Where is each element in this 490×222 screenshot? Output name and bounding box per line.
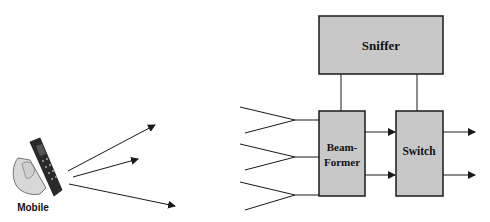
- beamformer-label-line2: Former: [324, 156, 360, 168]
- sniffer-label: Sniffer: [362, 38, 401, 53]
- diagram-canvas: Mobile Sniffer Beam- Former Switch: [0, 0, 490, 222]
- switch-label: Switch: [402, 145, 436, 157]
- diagram: Mobile Sniffer Beam- Former Switch: [0, 0, 490, 222]
- beamformer-box: [319, 111, 365, 196]
- signal-arrow-mid: [73, 159, 138, 177]
- antenna-3: [240, 182, 319, 210]
- mobile-label: Mobile: [17, 202, 49, 213]
- signal-arrow-down: [69, 184, 175, 206]
- antenna-1: [240, 107, 319, 133]
- mobile-phone-icon: [13, 138, 62, 196]
- beamformer-label-line1: Beam-: [327, 141, 358, 153]
- antenna-2: [240, 144, 319, 170]
- signal-arrow-up: [68, 125, 155, 171]
